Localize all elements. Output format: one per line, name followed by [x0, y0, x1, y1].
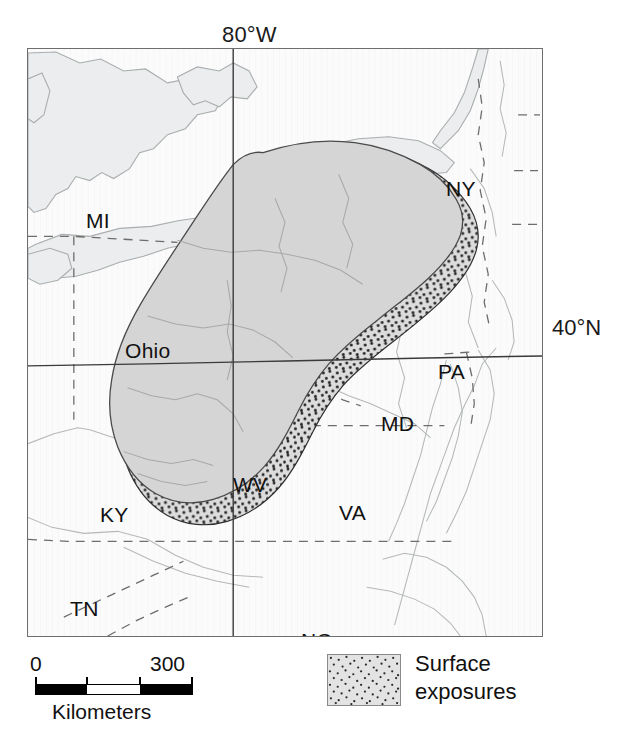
scale-min-label: 0: [30, 652, 42, 676]
scale-bar-units: Kilometers: [52, 700, 151, 724]
scale-segment-1: [35, 684, 87, 695]
legend: Surface exposures: [327, 652, 577, 722]
map-figure: 80°W 40°N: [0, 0, 626, 736]
map-plot-area: MI NY Ohio PA MD WV VA KY TN NC: [27, 48, 543, 637]
legend-label-line-1: Surface: [415, 650, 517, 678]
legend-label-line-2: exposures: [415, 678, 517, 706]
scale-bar: 0 300 Kilometers: [30, 652, 210, 728]
scale-segment-2: [87, 684, 140, 695]
legend-text: Surface exposures: [415, 650, 517, 706]
scale-bar-numbers: 0 300: [30, 652, 210, 678]
stipple-pattern-icon: [328, 655, 400, 705]
scale-max-label: 300: [150, 652, 185, 676]
legend-swatch-surface-exposures: [327, 654, 401, 706]
longitude-label-80w: 80°W: [222, 22, 277, 48]
map-graphics: [28, 49, 542, 636]
scale-bar-segments: [35, 684, 193, 695]
scale-segment-3: [140, 684, 193, 695]
latitude-label-40n: 40°N: [552, 315, 601, 341]
